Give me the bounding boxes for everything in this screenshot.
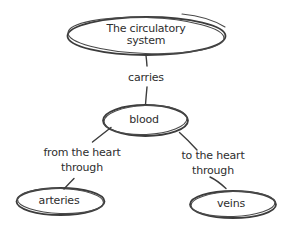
edge-line-system-to-carries (146, 56, 147, 67)
edge-line-blood-to-left-label (93, 128, 112, 143)
edge-label-carries: carries (128, 70, 164, 85)
node-label-circulatory-system: The circulatory system (106, 23, 185, 47)
node-label-blood: blood (129, 114, 158, 126)
edge-line-right-label-to-veins (210, 177, 226, 189)
concept-map: The circulatory system blood arteries ve… (0, 0, 291, 233)
edge-line-carries-to-blood (146, 87, 148, 105)
node-label-arteries: arteries (39, 195, 80, 207)
edge-label-from-the-heart-through: from the heart through (43, 145, 120, 175)
node-label-veins: veins (217, 198, 245, 210)
edge-label-to-the-heart-through: to the heart through (181, 148, 244, 178)
